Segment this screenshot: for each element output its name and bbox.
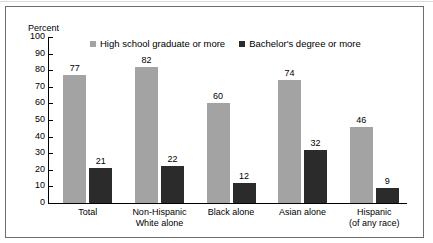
y-tick-label: 100 [30, 31, 45, 41]
y-tick-mark [49, 153, 53, 154]
y-tick-label: 0 [40, 197, 45, 207]
bar: 60 [207, 103, 230, 203]
bar-value-label: 74 [285, 68, 295, 78]
bar-group: 7721 [63, 37, 112, 203]
plot-area: 0102030405060708090100 77218222601274324… [48, 37, 406, 203]
bar-value-label: 77 [70, 63, 80, 73]
bar: 32 [304, 150, 327, 203]
y-tick-mark [49, 87, 53, 88]
bar: 22 [161, 166, 184, 203]
bar-value-label: 12 [239, 171, 249, 181]
y-tick-label: 20 [35, 164, 45, 174]
y-tick-label: 30 [35, 147, 45, 157]
y-tick-mark [49, 203, 53, 204]
category-label-line: Hispanic [324, 207, 424, 218]
bar-group: 6012 [207, 37, 256, 203]
bar-value-label: 21 [96, 156, 106, 166]
y-tick-mark [49, 37, 53, 38]
chart-page: Percent High school graduate or more Bac… [0, 0, 433, 243]
bar-value-label: 32 [311, 138, 321, 148]
y-tick-mark [49, 120, 53, 121]
y-tick-mark [49, 54, 53, 55]
bar: 46 [350, 127, 373, 203]
y-tick-mark [49, 103, 53, 104]
y-tick-mark [49, 70, 53, 71]
y-tick-label: 40 [35, 131, 45, 141]
y-tick-label: 90 [35, 48, 45, 58]
bar-value-label: 22 [167, 154, 177, 164]
bar: 9 [376, 188, 399, 203]
x-axis-line [48, 203, 407, 204]
y-tick-mark [49, 170, 53, 171]
bar-group: 469 [350, 37, 399, 203]
bar-value-label: 82 [141, 55, 151, 65]
bar-value-label: 60 [213, 91, 223, 101]
category-label-line: White alone [109, 218, 209, 229]
y-tick-label: 50 [35, 114, 45, 124]
bar-value-label: 9 [385, 176, 390, 186]
bar: 12 [233, 183, 256, 203]
y-tick-mark [49, 137, 53, 138]
y-tick-mark [49, 186, 53, 187]
bar: 21 [89, 168, 112, 203]
y-tick-label: 10 [35, 180, 45, 190]
bar: 82 [135, 67, 158, 203]
y-tick-label: 70 [35, 81, 45, 91]
bar-group: 8222 [135, 37, 184, 203]
y-tick-label: 80 [35, 64, 45, 74]
category-label: Hispanic(of any race) [324, 207, 424, 228]
bar-value-label: 46 [356, 115, 366, 125]
bar: 77 [63, 75, 86, 203]
category-label-line: (of any race) [324, 218, 424, 229]
bar-group: 7432 [278, 37, 327, 203]
bar: 74 [278, 80, 301, 203]
y-tick-label: 60 [35, 97, 45, 107]
clipped-top-rule [0, 0, 433, 3]
chart-frame: Percent High school graduate or more Bac… [5, 6, 424, 238]
